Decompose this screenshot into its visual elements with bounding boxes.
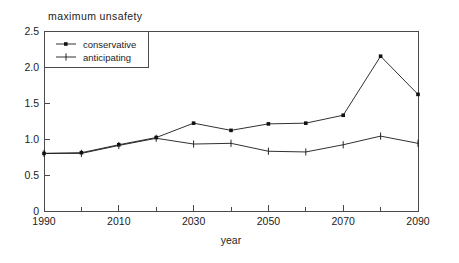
y-tick-label: 1.0 (24, 133, 39, 145)
y-tick-label: 1.5 (24, 97, 39, 109)
series-anticipating (44, 133, 418, 157)
data-point (229, 129, 233, 133)
y-tick-label: 2.0 (24, 61, 39, 73)
y-tick-label: 0.5 (24, 169, 39, 181)
data-point (267, 122, 271, 126)
data-point (304, 121, 308, 125)
chart-figure: 2.5 2.0 1.5 1.0 0.5 0 1990 2010 2030 205… (0, 0, 459, 263)
y-tick-label: 2.5 (24, 25, 39, 37)
x-tick-label: 2070 (332, 215, 356, 227)
x-tick-label: 2030 (182, 215, 206, 227)
x-tick-label: 2090 (406, 215, 430, 227)
x-tick-label: 2010 (107, 215, 131, 227)
data-point (416, 93, 420, 97)
chart-title: maximum unsafety (48, 10, 143, 22)
x-axis: 1990 2010 2030 2050 2070 2090 (32, 205, 430, 227)
legend: conservative anticipating (44, 31, 148, 67)
legend-label: anticipating (83, 52, 131, 63)
series-layer (42, 54, 420, 157)
x-axis-title: year (221, 234, 242, 246)
line-chart: 2.5 2.0 1.5 1.0 0.5 0 1990 2010 2030 205… (0, 0, 459, 263)
series-line (44, 56, 418, 153)
legend-label: conservative (83, 39, 136, 50)
data-point (192, 121, 196, 125)
data-point (341, 113, 345, 117)
data-point (379, 54, 383, 58)
x-tick-label: 1990 (32, 215, 56, 227)
x-tick-label: 2050 (257, 215, 281, 227)
